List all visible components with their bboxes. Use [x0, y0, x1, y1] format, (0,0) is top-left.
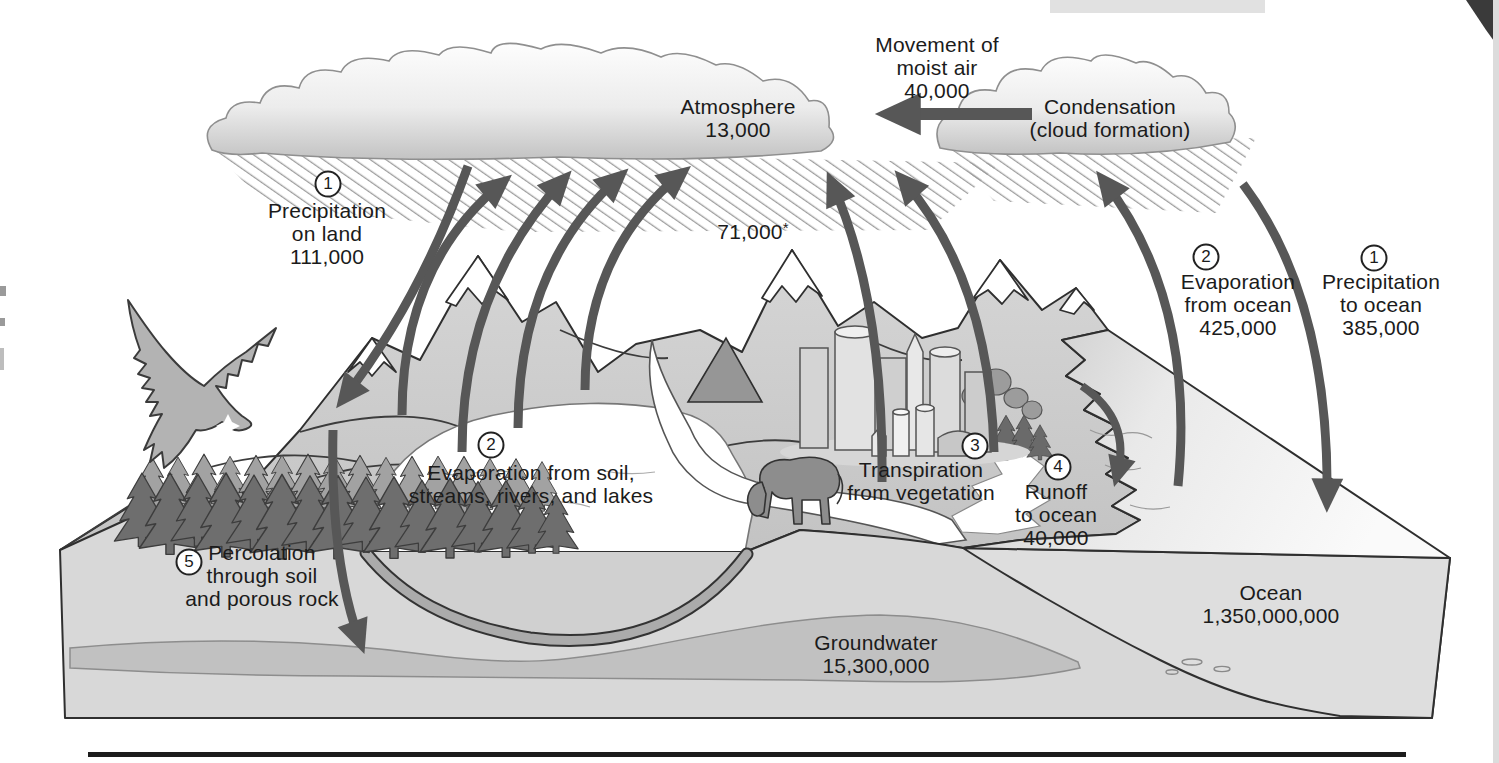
transpiration-label: Transpiration from vegetation [847, 458, 995, 504]
step-3-badge: 3 [962, 433, 989, 460]
moist-air-label: Movement of moist air 40,000 [875, 33, 999, 102]
rising-vapor-value: 71,000 [717, 220, 782, 243]
evaporation-from-ocean-label: Evaporation from ocean 425,000 [1181, 270, 1295, 339]
asterisk-footnote-mark: * [783, 219, 789, 236]
eagle-illustration [128, 300, 276, 468]
step-2-badge-ocean: 2 [1193, 244, 1220, 271]
rising-vapor-total-label: 71,000* [717, 216, 788, 243]
runoff-label: Runoff to ocean 40,000 [1015, 480, 1097, 549]
page-rule [88, 752, 1406, 757]
precipitation-on-land-label: Precipitation on land 111,000 [268, 199, 386, 268]
step-2-badge-soil: 2 [478, 432, 505, 459]
atmosphere-label: Atmosphere 13,000 [680, 95, 795, 141]
step-4-badge: 4 [1045, 454, 1072, 481]
step-1-badge-land: 1 [315, 171, 342, 198]
percolation-label: Percolation through soil and porous rock [185, 541, 339, 610]
condensation-label: Condensation (cloud formation) [1030, 95, 1191, 141]
precipitation-to-ocean-label: Precipitation to ocean 385,000 [1322, 270, 1440, 339]
step-1-badge-ocean: 1 [1361, 245, 1388, 272]
water-cycle-figure: Atmosphere 13,000 Movement of moist air … [0, 0, 1499, 763]
evaporation-from-soil-label: Evaporation from soil, streams, rivers, … [409, 461, 653, 507]
ocean-label: Ocean 1,350,000,000 [1203, 581, 1340, 627]
groundwater-label: Groundwater 15,300,000 [814, 631, 938, 677]
